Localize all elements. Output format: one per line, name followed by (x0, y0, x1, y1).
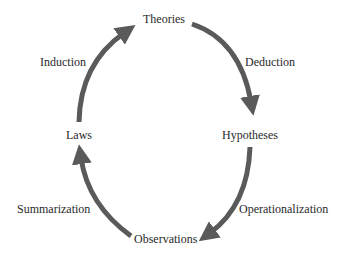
arrows-layer (0, 0, 348, 258)
deduction-arrow-icon (192, 24, 251, 102)
edge-label-deduction: Deduction (245, 56, 295, 68)
node-hypotheses: Hypotheses (222, 129, 278, 141)
induction-arrow-icon (79, 33, 124, 122)
node-theories: Theories (143, 13, 185, 25)
edge-label-summarization: Summarization (17, 203, 90, 215)
node-laws: Laws (66, 129, 92, 141)
research-cycle-diagram: Theories Hypotheses Observations Laws De… (0, 0, 348, 258)
node-observations: Observations (134, 233, 197, 245)
edge-label-induction: Induction (40, 56, 86, 68)
edge-label-operationalization: Operationalization (239, 203, 328, 215)
summarization-arrow-icon (81, 158, 131, 236)
operationalization-arrow-icon (210, 147, 250, 233)
